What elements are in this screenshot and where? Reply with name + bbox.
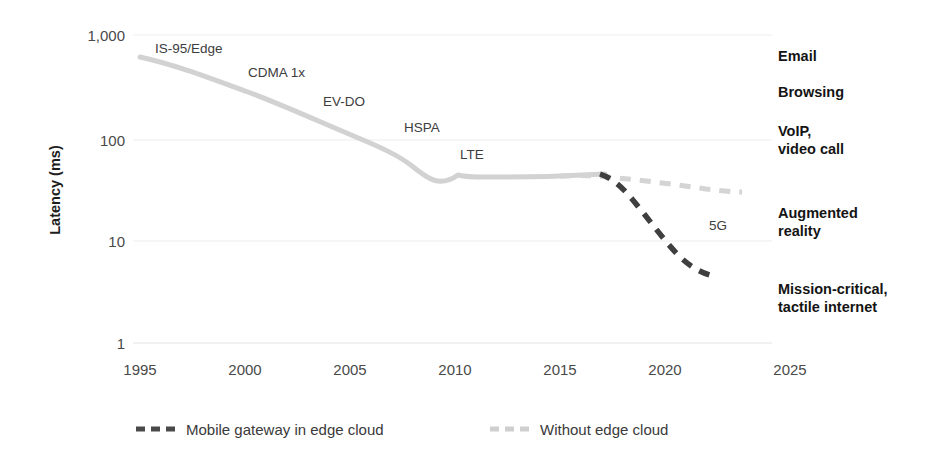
chart-legend: Mobile gateway in edge cloud Without edg…: [136, 421, 668, 438]
gridlines: [133, 35, 772, 343]
y-tick-1000: 1,000: [87, 27, 125, 44]
x-tick-2000: 2000: [228, 361, 261, 378]
y-tick-100: 100: [100, 132, 125, 149]
chart-canvas: 1,000 100 10 1 Latency (ms) 1995 2000 20…: [0, 0, 942, 462]
usecase-labels: Email Browsing VoIP, video call Augmente…: [778, 48, 888, 315]
x-tick-2015: 2015: [543, 361, 576, 378]
series-annotations: IS-95/Edge CDMA 1x EV-DO HSPA LTE 5G: [155, 41, 727, 233]
series-historical-line: [140, 57, 605, 181]
y-tick-10: 10: [108, 233, 125, 250]
latency-evolution-chart: 1,000 100 10 1 Latency (ms) 1995 2000 20…: [0, 0, 942, 462]
x-tick-2010: 2010: [438, 361, 471, 378]
y-axis-ticks: 1,000 100 10 1: [87, 27, 125, 352]
legend-item-without-edge-cloud[interactable]: Without edge cloud: [490, 421, 668, 438]
y-axis-title: Latency (ms): [47, 145, 63, 235]
annotation-lte: LTE: [460, 147, 484, 162]
usecase-voip-line2: video call: [778, 141, 844, 157]
annotation-hspa: HSPA: [404, 120, 440, 135]
annotation-cdma: CDMA 1x: [248, 65, 305, 80]
usecase-ar-line2: reality: [778, 223, 821, 239]
x-tick-2005: 2005: [333, 361, 366, 378]
series-without-edge-cloud: [560, 176, 742, 192]
legend-label-without-edge-cloud: Without edge cloud: [540, 421, 668, 438]
annotation-is95: IS-95/Edge: [155, 41, 223, 56]
x-axis-ticks: 1995 2000 2005 2010 2015 2020 2025: [123, 361, 806, 378]
x-tick-2025: 2025: [773, 361, 806, 378]
x-tick-1995: 1995: [123, 361, 156, 378]
annotation-5g: 5G: [709, 218, 727, 233]
legend-label-edge-cloud: Mobile gateway in edge cloud: [186, 421, 384, 438]
usecase-mission-line1: Mission-critical,: [778, 281, 888, 297]
usecase-ar-line1: Augmented: [778, 205, 858, 221]
usecase-mission-line2: tactile internet: [778, 299, 877, 315]
legend-item-edge-cloud[interactable]: Mobile gateway in edge cloud: [136, 421, 384, 438]
usecase-browsing: Browsing: [778, 84, 844, 100]
y-tick-1: 1: [117, 335, 125, 352]
x-tick-2020: 2020: [648, 361, 681, 378]
usecase-email: Email: [778, 48, 817, 64]
usecase-voip-line1: VoIP,: [778, 123, 811, 139]
annotation-evdo: EV-DO: [323, 94, 365, 109]
